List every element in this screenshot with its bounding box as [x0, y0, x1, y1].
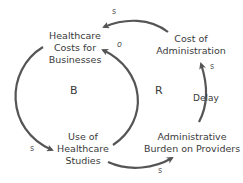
loop-label-balancing: B: [70, 84, 78, 97]
arrow-use-studies-to-admin-burden: [108, 158, 172, 168]
node-label-line: Use of: [53, 131, 113, 143]
causal-loop-diagram: Healthcare Costs for Businesses Cost of …: [0, 0, 243, 183]
arrows-layer: [0, 0, 243, 183]
loop-label-reinforcing: R: [155, 84, 163, 97]
delay-label: Delay: [193, 93, 219, 103]
node-label-line: Burden on Providers: [144, 143, 240, 155]
node-use-of-healthcare-studies: Use of Healthcare Studies: [53, 131, 113, 167]
node-label-line: Administrative: [144, 131, 240, 143]
node-label-line: Studies: [53, 155, 113, 167]
polarity-healthcare-costs-to-use-studies: s: [30, 144, 34, 153]
polarity-admin-burden-to-cost-admin: s: [210, 62, 214, 71]
polarity-cost-admin-to-healthcare-costs: s: [112, 7, 116, 16]
node-label-line: Costs for: [45, 42, 105, 54]
node-cost-of-administration: Cost of Administration: [156, 33, 226, 57]
node-label-line: Healthcare: [45, 30, 105, 42]
polarity-use-studies-to-admin-burden: s: [158, 166, 162, 175]
node-label-line: Businesses: [45, 54, 105, 66]
arrow-cost-admin-to-healthcare-costs: [104, 21, 168, 32]
polarity-use-studies-to-healthcare-costs: o: [117, 40, 122, 49]
node-administrative-burden-on-providers: Administrative Burden on Providers: [144, 131, 240, 155]
node-label-line: Administration: [156, 45, 226, 57]
node-healthcare-costs-for-businesses: Healthcare Costs for Businesses: [45, 30, 105, 66]
node-label-line: Cost of: [156, 33, 226, 45]
node-label-line: Healthcare: [53, 143, 113, 155]
